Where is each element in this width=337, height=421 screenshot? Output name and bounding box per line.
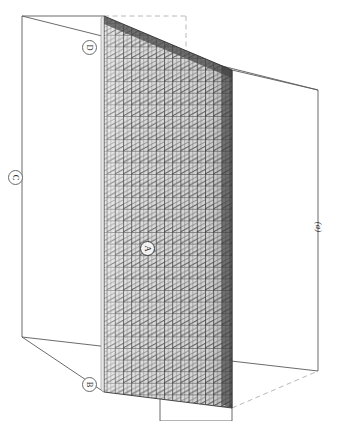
callout-b-label: B xyxy=(83,378,96,391)
lattice-left-edge xyxy=(101,16,104,392)
figure-caption: (a) xyxy=(314,222,325,232)
figure-caption-text: (a) xyxy=(314,222,324,233)
callout-a[interactable]: A xyxy=(140,241,155,256)
isometric-duct-diagram xyxy=(0,0,337,421)
callout-c-label: C xyxy=(9,171,22,184)
lattice-grid-panel xyxy=(104,16,232,408)
figure-root: A B C D (a) xyxy=(0,0,337,421)
callout-b[interactable]: B xyxy=(82,377,97,392)
callout-d[interactable]: D xyxy=(82,40,97,55)
callout-a-label: A xyxy=(141,242,154,255)
callout-d-label: D xyxy=(83,41,96,54)
callout-c[interactable]: C xyxy=(8,170,23,185)
